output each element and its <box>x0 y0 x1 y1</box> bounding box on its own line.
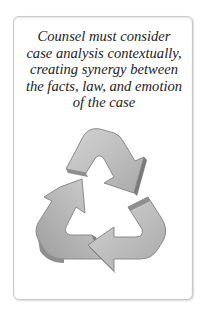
caption-line: of the case <box>14 94 194 111</box>
right-arrow <box>88 197 166 274</box>
quote-card: Counsel must consider case analysis cont… <box>13 16 193 300</box>
caption-line: Counsel must consider <box>14 28 194 45</box>
caption-line: case analysis contextually, <box>14 45 194 62</box>
quote-caption: Counsel must consider case analysis cont… <box>14 28 194 111</box>
caption-line: creating synergy between <box>14 61 194 78</box>
recycle-icon <box>30 127 180 275</box>
caption-line: the facts, law, and emotion <box>14 78 194 95</box>
